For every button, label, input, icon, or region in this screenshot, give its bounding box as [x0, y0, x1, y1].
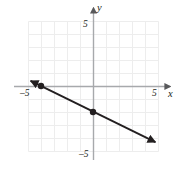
plotted-point-y-intercept [90, 109, 96, 115]
plotted-point-x-intercept [38, 83, 44, 89]
x-axis-tick-label-negative-5: –5 [20, 89, 30, 99]
y-axis-label: y [97, 3, 102, 14]
x-axis-label: x [168, 89, 173, 100]
y-axis-tick-label-negative-5: –5 [79, 150, 89, 160]
coordinate-graph-figure: –5 5 5 –5 x y [0, 0, 183, 171]
y-axis-tick-label-positive-5: 5 [83, 20, 88, 30]
graph-canvas [0, 0, 183, 171]
x-axis-tick-label-positive-5: 5 [152, 89, 157, 99]
